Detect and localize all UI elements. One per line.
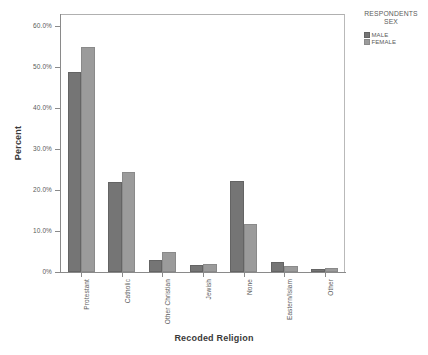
y-axis-tick	[55, 149, 60, 150]
bar	[203, 264, 217, 272]
x-axis-tick-label: Catholic	[125, 279, 132, 303]
y-axis-tick-label: 30.0%	[33, 146, 52, 153]
x-axis-tick-label: None	[247, 279, 254, 295]
x-axis-tick	[244, 273, 245, 277]
bar-chart: 0%10.0%20.0%30.0%40.0%50.0%60.0% Percent…	[0, 0, 428, 355]
x-axis-tick	[284, 273, 285, 277]
y-axis-tick-label: 40.0%	[33, 105, 52, 112]
bar	[149, 260, 163, 272]
y-axis-tick	[55, 108, 60, 109]
y-axis-tick	[55, 67, 60, 68]
bar	[81, 47, 95, 272]
y-axis-tick-label: 20.0%	[33, 187, 52, 194]
y-axis-tick	[55, 26, 60, 27]
bar	[284, 266, 298, 272]
legend-title-line2: SEX	[356, 18, 426, 26]
y-axis-tick-label: 0%	[42, 269, 52, 276]
x-axis-tick	[325, 273, 326, 277]
x-axis-tick-label: Other	[328, 279, 335, 296]
bar	[108, 182, 122, 272]
y-axis-title: Percent	[13, 126, 23, 160]
y-axis-tick	[55, 190, 60, 191]
legend-swatch	[364, 39, 370, 45]
legend: RESPONDENTS SEX MALEFEMALE	[356, 10, 426, 46]
x-axis-title: Recoded Religion	[0, 333, 428, 343]
legend-swatch	[364, 32, 370, 38]
x-axis-tick	[81, 273, 82, 277]
bars-layer	[61, 14, 345, 272]
bar	[190, 265, 204, 272]
legend-title: RESPONDENTS SEX	[356, 10, 426, 27]
y-axis-tick-label: 50.0%	[33, 64, 52, 71]
bar	[230, 181, 244, 272]
bar	[122, 172, 136, 272]
bar	[311, 269, 325, 272]
bar	[271, 262, 285, 272]
x-axis-tick-label: Jewish	[206, 279, 213, 299]
x-axis-tick	[203, 273, 204, 277]
legend-label: FEMALE	[372, 39, 397, 45]
y-axis-tick-label: 10.0%	[33, 228, 52, 235]
y-axis-tick-label: 60.0%	[33, 23, 52, 30]
legend-label: MALE	[372, 32, 389, 38]
x-axis-tick	[162, 273, 163, 277]
x-axis-tick-label: Protestant	[84, 279, 91, 310]
y-axis-tick	[55, 272, 60, 273]
legend-title-line1: RESPONDENTS	[364, 10, 417, 17]
bar	[244, 224, 258, 272]
bar	[68, 72, 82, 272]
y-axis-tick	[55, 231, 60, 232]
x-axis-tick-label: Eastern/Islam	[287, 279, 294, 320]
x-axis-tick	[122, 273, 123, 277]
legend-item: MALE	[364, 32, 426, 38]
legend-items: MALEFEMALE	[356, 32, 426, 45]
x-axis-tick-label: Other Christian	[165, 279, 172, 324]
bar	[162, 252, 176, 272]
legend-item: FEMALE	[364, 39, 426, 45]
bar	[325, 268, 339, 272]
